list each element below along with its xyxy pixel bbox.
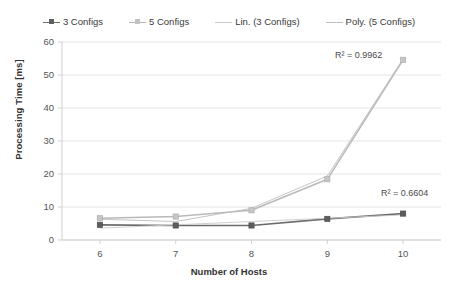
y-tick-label: 60: [28, 36, 54, 47]
x-tick-label: 7: [161, 248, 191, 259]
axis-lines: [58, 42, 441, 244]
y-tick-label: 0: [28, 234, 54, 245]
data-point-marker: [325, 216, 330, 221]
data-point-marker: [97, 216, 102, 221]
data-point-marker: [401, 211, 406, 216]
plot-svg: [0, 0, 458, 288]
data-point-marker: [249, 223, 254, 228]
series-line-4: [100, 59, 403, 222]
x-axis-title: Number of Hosts: [0, 266, 458, 277]
y-tick-label: 40: [28, 102, 54, 113]
data-point-marker: [401, 57, 406, 62]
data-point-marker: [325, 177, 330, 182]
y-tick-label: 30: [28, 135, 54, 146]
plot-area: 6050403020100 678910 R² = 0.9962R² = 0.6…: [0, 0, 458, 288]
y-axis-title: Processing Time [ms]: [13, 30, 24, 190]
x-tick-label: 10: [388, 248, 418, 259]
data-point-marker: [173, 214, 178, 219]
y-tick-label: 10: [28, 201, 54, 212]
series-line-2: [100, 60, 403, 218]
x-tick-label: 8: [237, 248, 267, 259]
data-point-marker: [173, 223, 178, 228]
markers-layer: [97, 57, 405, 228]
series-layer: [100, 59, 403, 228]
data-point-marker: [249, 208, 254, 213]
r2-annotation: R² = 0.9962: [335, 50, 382, 60]
data-point-marker: [97, 222, 102, 227]
x-tick-label: 6: [85, 248, 115, 259]
chart-container: 3 Configs 5 Configs Lin. (3 Configs) Pol…: [0, 0, 458, 288]
x-tick-label: 9: [312, 248, 342, 259]
y-tick-label: 20: [28, 168, 54, 179]
r2-annotation: R² = 0.6604: [381, 188, 428, 198]
y-tick-label: 50: [28, 69, 54, 80]
